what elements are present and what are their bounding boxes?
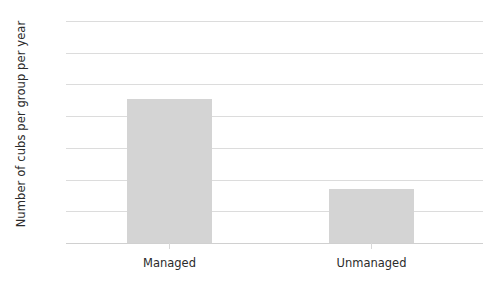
bar-managed [127, 99, 212, 243]
gridline [66, 84, 483, 85]
x-axis-tick [169, 243, 170, 249]
gridline [66, 243, 483, 244]
x-axis-tick [371, 243, 372, 249]
y-axis-title: Number of cubs per group per year [14, 9, 28, 239]
bar-chart: Number of cubs per group per year 00,51,… [0, 0, 494, 287]
x-axis-tick-label: Unmanaged [292, 256, 452, 270]
plot-area [66, 21, 483, 243]
x-axis-tick-label: Managed [90, 256, 250, 270]
bar-unmanaged [329, 189, 414, 243]
gridline [66, 53, 483, 54]
gridline [66, 21, 483, 22]
